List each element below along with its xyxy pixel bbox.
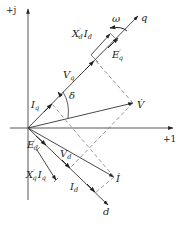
id-arrow (87, 184, 95, 192)
i-phasor-label: İ (115, 173, 121, 184)
omega-label: ω (112, 13, 120, 24)
q-axis-label: q (141, 12, 147, 23)
v-phasor-label: V̇ (137, 99, 146, 110)
eq-arrow (108, 38, 118, 48)
delta-arc (63, 92, 68, 118)
iq-label: Iq (30, 99, 39, 112)
vd-label: Vd (60, 148, 71, 161)
real-axis-label: +1 (163, 134, 176, 144)
phasor-diagram: +j +1 q d ω X′dId E′q Vq Iq δ V̇ E′d Vd … (0, 0, 184, 227)
xq-iq-label: X′qIq (25, 168, 46, 182)
v-proj-d (70, 103, 133, 168)
i-proj-d (95, 177, 114, 193)
id-label: Id (69, 181, 78, 194)
xd-id-label: X′dId (71, 27, 92, 41)
vq-label: Vq (63, 69, 74, 82)
imag-axis-label: +j (6, 5, 16, 15)
delta-label: δ (69, 90, 75, 101)
vd-arrow (62, 160, 70, 168)
v-proj-q (95, 60, 133, 103)
eq-prime-label: E′q (111, 48, 123, 62)
v-phasor (28, 103, 133, 128)
vq-arrow (85, 61, 94, 70)
ed-prime-label: E′d (26, 138, 38, 152)
d-axis-label: d (103, 206, 109, 217)
xd-id-bracket (91, 34, 110, 55)
iq-arrow (44, 104, 52, 112)
xd-id-tick1 (91, 55, 98, 62)
omega-arc (110, 27, 127, 31)
